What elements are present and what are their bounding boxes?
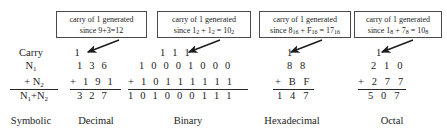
binary-carry-callout: carry of 1 generated since 12 + 12 = 102	[157, 11, 251, 38]
caption-hexadecimal: Hexadecimal	[252, 114, 332, 127]
decimal-callout-line1: carry of 1 generated	[57, 14, 146, 25]
hex-callout-line1: carry of 1 generated	[260, 14, 350, 25]
caption-decimal: Decimal	[66, 114, 126, 127]
hexadecimal-sum-row: 1 4 7	[273, 89, 314, 102]
decimal-sum-row: 3 2 7	[70, 89, 121, 102]
octal-carry-row: 1	[376, 47, 381, 59]
row-label-n2: + N2	[14, 76, 54, 88]
octal-n2-row: + 2 7 7	[358, 76, 406, 88]
row-label-n1: N1	[2, 60, 60, 72]
binary-callout-line2: since 12 + 12 = 102	[158, 25, 250, 36]
addition-carry-figure: carry of 1 generated since 9+3=12 carry …	[0, 0, 447, 137]
decimal-carry-row: 1	[70, 47, 120, 59]
binary-carry-row: 1 1 1	[160, 47, 192, 59]
binary-sum-row: 1 0 1 0 0 0 1 1 1	[128, 89, 248, 102]
caption-binary: Binary	[158, 114, 218, 127]
decimal-n2-row: + 1 9 1	[70, 76, 121, 88]
row-label-carry: Carry	[2, 47, 60, 59]
hexadecimal-n1-row: 8 8	[287, 60, 308, 72]
caption-symbolic: Symbolic	[0, 114, 62, 127]
binary-n1-row: 1 0 0 0 1 0 0 0	[139, 60, 232, 72]
row-label-sum: N1+N2	[10, 89, 58, 102]
decimal-n1-row: 1 3 6	[77, 60, 121, 72]
hexadecimal-n2-row: + B F	[275, 76, 312, 88]
caption-octal: Octal	[366, 114, 418, 127]
binary-n2-row: + 1 0 1 1 1 1 1 1	[128, 76, 234, 88]
octal-callout-line1: carry of 1 generated	[355, 14, 441, 25]
hexadecimal-carry-callout: carry of 1 generated since 816 + F16 = 1…	[259, 11, 351, 38]
decimal-callout-line2: since 9+3=12	[57, 25, 146, 36]
octal-sum-row: 5 0 7	[358, 89, 406, 102]
hex-callout-line2: since 816 + F16 = 1716	[260, 25, 350, 36]
decimal-carry-callout: carry of 1 generated since 9+3=12	[56, 11, 147, 38]
binary-callout-line1: carry of 1 generated	[158, 14, 250, 25]
octal-carry-callout: carry of 1 generated since 18 + 78 = 108	[354, 11, 442, 38]
octal-callout-line2: since 18 + 78 = 108	[355, 25, 441, 36]
octal-n1-row: 2 1 0	[371, 60, 405, 72]
octal-callout-arrow	[376, 38, 416, 56]
hexadecimal-carry-row: 1	[287, 47, 292, 59]
